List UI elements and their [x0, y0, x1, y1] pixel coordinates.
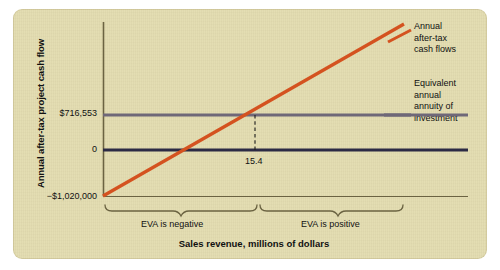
chart-figure: Annual after-tax project cash flow Sales…	[0, 0, 500, 270]
bracket-eva-positive	[260, 205, 403, 216]
plot-area	[0, 0, 500, 270]
cash-flow-line	[103, 24, 404, 196]
bracket-eva-negative	[105, 205, 257, 216]
